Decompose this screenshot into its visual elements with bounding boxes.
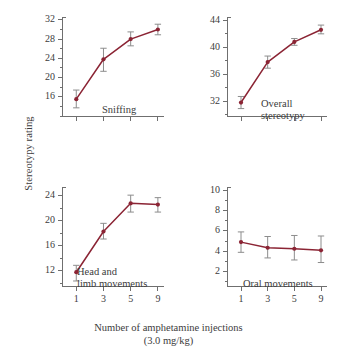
x-tick-label: 9 <box>309 293 333 304</box>
x-tick-label: 1 <box>64 293 88 304</box>
panel-title-line1: Overall <box>261 98 293 109</box>
panel-title-bottom-right: Oral movements <box>243 278 313 290</box>
y-tick-label: 2 <box>205 265 220 276</box>
panel-title-line1: Head and <box>77 266 117 277</box>
panel-title-line2: stereotypy <box>261 110 305 122</box>
shared-x-axis-label: Number of amphetamine injections (3.0 mg… <box>0 322 337 347</box>
plot-area-overall-stereotypy <box>205 8 331 146</box>
y-tick-label: 20 <box>40 71 55 82</box>
panel-oral-movements: 2468101359Oral movements <box>205 178 331 316</box>
y-tick-label: 36 <box>205 68 220 79</box>
plot-area-sniffing <box>40 8 168 146</box>
y-tick-label: 16 <box>40 239 55 250</box>
y-tick-label: 20 <box>40 214 55 225</box>
panel-title-top-left: Sniffing <box>102 104 136 116</box>
y-tick-label: 32 <box>40 13 55 24</box>
panel-overall-stereotypy: 32364044Overallstereotypy <box>205 8 331 146</box>
x-tick-label: 5 <box>119 293 143 304</box>
stereotypy-figure: Stereotypy rating Number of amphetamine … <box>0 0 337 355</box>
y-tick-label: 12 <box>40 264 55 275</box>
x-tick-label: 3 <box>91 293 115 304</box>
panel-title-bottom-left: Head andlimb movements <box>77 266 147 290</box>
x-tick-label: 5 <box>282 293 306 304</box>
shared-y-axis-label: Stereotypy rating <box>23 74 34 234</box>
y-tick-label: 40 <box>205 41 220 52</box>
panel-title-line2: limb movements <box>77 278 147 290</box>
y-tick-label: 32 <box>205 95 220 106</box>
x-axis-label-line2: (3.0 mg/kg) <box>0 335 337 348</box>
y-tick-label: 6 <box>205 224 220 235</box>
x-tick-label: 1 <box>229 293 253 304</box>
y-tick-label: 28 <box>40 33 55 44</box>
y-tick-label: 4 <box>205 245 220 256</box>
panel-sniffing: 1620242832Sniffing <box>40 8 168 146</box>
x-tick-label: 9 <box>146 293 170 304</box>
x-axis-label-line1: Number of amphetamine injections <box>94 322 242 333</box>
y-tick-label: 24 <box>40 52 55 63</box>
panel-title-top-right: Overallstereotypy <box>261 98 305 122</box>
y-tick-label: 24 <box>40 189 55 200</box>
y-tick-label: 8 <box>205 204 220 215</box>
y-tick-label: 10 <box>205 184 220 195</box>
y-tick-label: 44 <box>205 14 220 25</box>
x-tick-label: 3 <box>256 293 280 304</box>
panel-head-and-limb-movements: 121620241359Head andlimb movements <box>40 178 168 316</box>
y-tick-label: 16 <box>40 90 55 101</box>
